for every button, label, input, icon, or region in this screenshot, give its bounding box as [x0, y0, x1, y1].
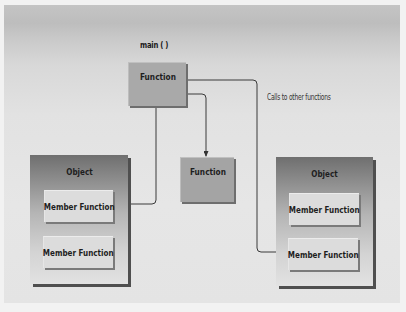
calls-label: Calls to other functions — [267, 92, 331, 102]
standalone-function-label: Function — [190, 167, 226, 177]
object-left-title: Object — [30, 167, 128, 177]
standalone-function-box: Function — [180, 157, 234, 202]
main-function-label: Function — [140, 72, 176, 82]
arrow-to-function — [186, 94, 206, 156]
object-left-member-1: Member Function — [44, 190, 113, 222]
main-label: main ( ) — [140, 40, 168, 50]
object-right-member-1: Member Function — [289, 193, 359, 225]
object-right-member-2: Member Function — [288, 238, 358, 270]
main-function-box: Function — [128, 62, 186, 106]
object-left: Object Member Function Member Function — [30, 155, 128, 284]
object-right-title: Object — [276, 169, 373, 179]
object-right: Object Member Function Member Function — [276, 157, 373, 286]
object-left-member-2: Member Function — [43, 236, 113, 268]
